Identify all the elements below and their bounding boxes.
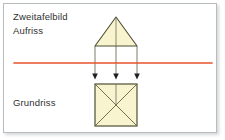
projection-arrowheads-group [92,74,140,80]
arrowhead-left [92,74,98,80]
plan-label: Grundriss [13,97,56,108]
title-label: Zweitafelbild [13,11,68,22]
diagram-screenshot: Zweitafelbild Aufriss Grundriss [0,0,225,140]
plan-view-shape [95,84,137,126]
arrowhead-right [134,74,140,80]
arrowhead-center [113,74,119,80]
elevation-view-shape [95,17,137,46]
elevation-label: Aufriss [13,25,43,36]
